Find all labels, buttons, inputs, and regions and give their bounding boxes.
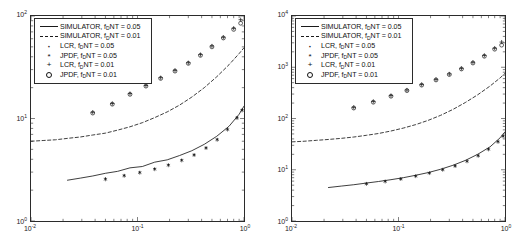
legend-entry: JPDF, fDNT = 0.01 (299, 70, 408, 80)
legend-key-lcr-005-icon: · (299, 41, 321, 51)
legend-key-jpdf-005-icon: * (38, 51, 60, 61)
legend-key-simulator-005-icon (38, 22, 60, 32)
legend-entry: ·LCR, fDNT = 0.05 (38, 41, 147, 51)
legend-key-jpdf-001-icon (299, 70, 321, 80)
legend-entry-label: SIMULATOR, fDNT = 0.05 (60, 23, 140, 31)
legend-entry: SIMULATOR, fDNT = 0.01 (299, 32, 408, 42)
legend-entry: +LCR, fDNT = 0.01 (299, 60, 408, 70)
y-tick-label: 102 (265, 115, 288, 122)
legend-entry-label: JPDF, fDNT = 0.01 (321, 71, 378, 79)
x-tick-label: 10-1 (126, 225, 150, 232)
legend-key-jpdf-001-icon (38, 70, 60, 80)
legend-entry: SIMULATOR, fDNT = 0.05 (38, 22, 147, 32)
legend-entry-label: JPDF, fDNT = 0.05 (60, 52, 117, 60)
legend-entry: +LCR, fDNT = 0.01 (38, 60, 147, 70)
legend-entry: *JPDF, fDNT = 0.05 (299, 51, 408, 61)
y-tick-label: 104 (265, 11, 288, 18)
y-tick-label: 100 (4, 218, 27, 225)
panel-right: 10010110210310410-210-1100 SIMULATOR, fD… (261, 0, 521, 251)
x-tick-label: 100 (494, 225, 518, 232)
legend-right: SIMULATOR, fDNT = 0.05SIMULATOR, fDNT = … (295, 18, 413, 84)
y-tick-label: 103 (265, 63, 288, 70)
y-tick-label: 101 (265, 166, 288, 173)
x-tick-label: 10-2 (279, 225, 303, 232)
legend-key-simulator-005-icon (299, 22, 321, 32)
x-tick-label: 10-2 (18, 225, 42, 232)
y-tick-label: 102 (4, 11, 27, 18)
legend-key-lcr-001-icon: + (38, 60, 60, 70)
x-tick-label: 10-1 (387, 225, 411, 232)
legend-entry-label: LCR, fDNT = 0.01 (60, 61, 114, 69)
legend-key-lcr-005-icon: · (38, 41, 60, 51)
legend-entry-label: LCR, fDNT = 0.05 (321, 42, 375, 50)
legend-entry-label: JPDF, fDNT = 0.05 (321, 52, 378, 60)
legend-entry-label: LCR, fDNT = 0.01 (321, 61, 375, 69)
legend-entry-label: JPDF, fDNT = 0.01 (60, 71, 117, 79)
legend-entry: *JPDF, fDNT = 0.05 (38, 51, 147, 61)
y-tick-label: 101 (4, 115, 27, 122)
legend-left: SIMULATOR, fDNT = 0.05SIMULATOR, fDNT = … (34, 18, 152, 84)
legend-entry-label: SIMULATOR, fDNT = 0.01 (60, 32, 140, 40)
legend-entry: SIMULATOR, fDNT = 0.05 (299, 22, 408, 32)
x-tick-label: 100 (233, 225, 257, 232)
legend-entry: JPDF, fDNT = 0.01 (38, 70, 147, 80)
legend-entry: SIMULATOR, fDNT = 0.01 (38, 32, 147, 42)
panel-left: 10010110210-210-1100 SIMULATOR, fDNT = 0… (0, 0, 260, 251)
figure-two-panel-loglog: 10010110210-210-1100 SIMULATOR, fDNT = 0… (0, 0, 521, 251)
legend-entry-label: SIMULATOR, fDNT = 0.01 (321, 32, 401, 40)
legend-key-lcr-001-icon: + (299, 60, 321, 70)
legend-entry-label: LCR, fDNT = 0.05 (60, 42, 114, 50)
legend-entry-label: SIMULATOR, fDNT = 0.05 (321, 23, 401, 31)
legend-entry: ·LCR, fDNT = 0.05 (299, 41, 408, 51)
legend-key-jpdf-005-icon: * (299, 51, 321, 61)
y-tick-label: 100 (265, 218, 288, 225)
